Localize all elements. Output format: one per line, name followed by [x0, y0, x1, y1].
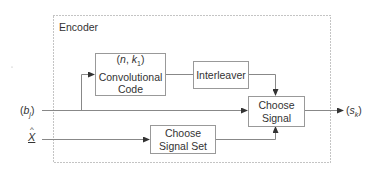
stray-dot	[11, 66, 12, 67]
conv-code-params: (n, k1)	[117, 53, 145, 71]
choose-signal-set-line2: Signal Set	[159, 140, 207, 153]
encoder-label: Encoder	[59, 21, 98, 33]
choose-signal-set-block: Choose Signal Set	[150, 125, 216, 154]
interleaver-block: Interleaver	[193, 61, 249, 89]
output-s-label: (sk)	[346, 104, 362, 121]
choose-signal-set-line1: Choose	[165, 127, 201, 140]
conv-code-line3: Code	[118, 83, 143, 96]
edge-b-to-conv-code	[82, 75, 95, 111]
conv-code-block: (n, k1) Convolutional Code	[95, 53, 166, 96]
choose-signal-block: Choose Signal	[248, 96, 305, 127]
interleaver-label: Interleaver	[196, 69, 246, 82]
conv-code-line2: Convolutional	[99, 71, 163, 84]
input-x-label: ^X	[28, 131, 35, 143]
choose-signal-line1: Choose	[258, 99, 294, 112]
edge-interleaver-to-choose-signal	[248, 75, 276, 96]
input-b-label: (bj)	[20, 104, 34, 121]
choose-signal-line2: Signal	[262, 112, 291, 125]
edge-signal-set-to-choose-signal	[215, 127, 276, 140]
